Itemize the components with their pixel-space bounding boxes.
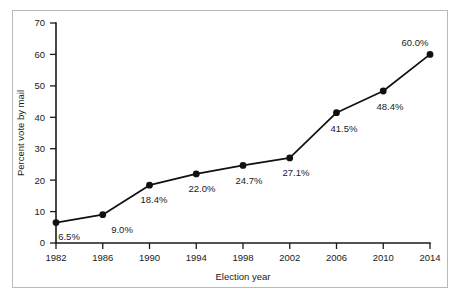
y-tick-label-70: 70 <box>34 17 45 28</box>
x-tick-label-2002: 2002 <box>279 252 300 263</box>
x-axis-title: Election year <box>216 271 271 282</box>
data-point-labels: 6.5% 9.0% 18.4% 22.0% 24.7% 27.1% 41.5% … <box>58 37 429 242</box>
x-tick-label-2010: 2010 <box>373 252 394 263</box>
x-tick-label-1998: 1998 <box>232 252 253 263</box>
line-chart: 0 10 20 30 40 50 60 70 1982 1986 1990 1 <box>0 0 460 306</box>
x-tick-labels: 1982 1986 1990 1994 1998 2002 2006 2010 … <box>45 252 440 263</box>
data-label-1990: 18.4% <box>141 194 168 205</box>
y-tick-label-0: 0 <box>40 237 45 248</box>
y-tick-label-60: 60 <box>34 49 45 60</box>
x-tick-label-2014: 2014 <box>419 252 440 263</box>
chart-screenshot: 0 10 20 30 40 50 60 70 1982 1986 1990 1 <box>0 0 460 306</box>
data-point-2014 <box>427 51 434 58</box>
data-point-1998 <box>240 162 247 169</box>
data-point-1982 <box>53 219 60 226</box>
data-point-markers <box>53 51 434 226</box>
data-point-1986 <box>99 211 106 218</box>
y-tick-label-30: 30 <box>34 143 45 154</box>
data-label-1986: 9.0% <box>111 224 133 235</box>
data-label-2006: 41.5% <box>331 123 358 134</box>
data-point-2006 <box>333 109 340 116</box>
x-tick-label-1994: 1994 <box>186 252 207 263</box>
data-label-1998: 24.7% <box>236 175 263 186</box>
x-tick-label-1982: 1982 <box>45 252 66 263</box>
data-point-1990 <box>146 182 153 189</box>
data-label-2002: 27.1% <box>283 167 310 178</box>
y-tick-marks <box>50 23 56 243</box>
y-axis-title: Percent vote by mail <box>15 90 26 176</box>
x-tick-label-1986: 1986 <box>92 252 113 263</box>
data-point-2010 <box>380 88 387 95</box>
y-tick-labels: 0 10 20 30 40 50 60 70 <box>34 17 45 248</box>
x-tick-label-1990: 1990 <box>139 252 160 263</box>
data-label-1994: 22.0% <box>189 183 216 194</box>
y-tick-label-20: 20 <box>34 175 45 186</box>
data-label-2014: 60.0% <box>402 37 429 48</box>
y-tick-label-10: 10 <box>34 206 45 217</box>
x-tick-marks <box>56 243 430 249</box>
data-point-1994 <box>193 171 200 178</box>
data-label-1982: 6.5% <box>58 231 80 242</box>
y-tick-label-40: 40 <box>34 112 45 123</box>
data-label-2010: 48.4% <box>377 101 404 112</box>
x-tick-label-2006: 2006 <box>326 252 347 263</box>
y-tick-label-50: 50 <box>34 80 45 91</box>
data-series-line <box>56 54 430 222</box>
data-point-2002 <box>286 155 293 162</box>
